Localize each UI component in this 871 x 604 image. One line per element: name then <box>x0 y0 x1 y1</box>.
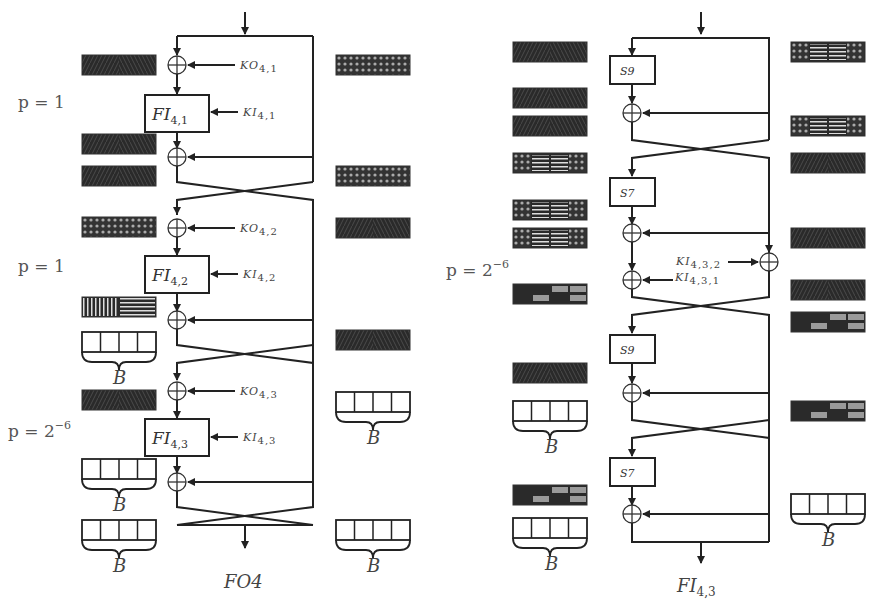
bucket-label: B <box>544 436 558 457</box>
bucket-brace <box>513 401 587 439</box>
state-block-mixed <box>791 42 865 62</box>
bucket-label: B <box>544 553 558 574</box>
bucket-brace <box>82 332 156 370</box>
bucket-brace <box>336 392 410 430</box>
ko-label: KO4,1 <box>239 59 278 74</box>
bucket-label: B <box>112 367 126 388</box>
bucket-label: B <box>112 494 126 515</box>
fo4-diagram <box>82 12 410 558</box>
bucket-label: B <box>366 427 380 448</box>
state-block-dense <box>82 134 156 154</box>
xor-icon <box>168 382 186 400</box>
state-block-crosshatch <box>336 166 410 186</box>
state-block-stripes <box>82 297 156 317</box>
bucket-brace <box>791 494 865 532</box>
xor-icon <box>168 473 186 491</box>
ki-label: KI4,3 <box>242 431 276 446</box>
state-block-dense <box>82 390 156 410</box>
ki-label: KI4,2 <box>242 268 276 283</box>
sbox-label: S7 <box>620 467 635 480</box>
state-block-dense <box>336 330 410 350</box>
probability-label: p = 2−6 <box>446 258 509 280</box>
probability-label: p = 1 <box>18 256 65 276</box>
state-block-crosshatch <box>82 217 156 237</box>
state-block-mixed <box>513 153 587 173</box>
state-block-dense <box>82 55 156 75</box>
state-block-partial <box>791 401 865 421</box>
fi43-diagram <box>513 12 865 563</box>
ki2-label: KI4,3,2 <box>675 255 721 270</box>
bucket-brace <box>82 520 156 558</box>
state-block-partial <box>513 284 587 304</box>
ko-label: KO4,3 <box>239 385 278 400</box>
state-block-dense <box>791 228 865 248</box>
bucket-label: B <box>821 529 835 550</box>
state-block-partial <box>513 485 587 505</box>
state-block-dense <box>513 42 587 62</box>
state-block-dense <box>513 88 587 108</box>
state-block-dense <box>791 153 865 173</box>
xor-icon <box>760 253 778 271</box>
probability-label: p = 1 <box>18 92 65 112</box>
xor-icon <box>623 104 641 122</box>
bucket-label: B <box>366 555 380 576</box>
bucket-brace <box>82 459 156 497</box>
diagram-canvas: KO4,1 FI4,1 KI4,1 p = 1 KO4,2 FI4,2 KI4,… <box>0 0 871 604</box>
ki1-label: KI4,3,1 <box>674 271 720 286</box>
xor-icon <box>623 505 641 523</box>
xor-icon <box>168 148 186 166</box>
sbox-label: S9 <box>620 344 635 357</box>
xor-icon <box>623 224 641 242</box>
xor-icon <box>168 56 186 74</box>
state-block-dense <box>336 218 410 238</box>
sbox-label: S7 <box>620 187 635 200</box>
state-block-partial <box>791 312 865 332</box>
state-block-mixed <box>513 228 587 248</box>
state-block-dense <box>82 166 156 186</box>
xor-icon <box>623 271 641 289</box>
bucket-brace <box>513 518 587 556</box>
state-block-mixed <box>513 200 587 220</box>
fi43-caption: FI4,3 <box>676 575 716 599</box>
state-block-dense <box>513 363 587 383</box>
state-block-dense <box>791 280 865 300</box>
xor-icon <box>623 384 641 402</box>
probability-label: p = 2−6 <box>8 419 71 441</box>
bucket-brace <box>336 520 410 558</box>
xor-icon <box>168 311 186 329</box>
state-block-dense <box>513 116 587 136</box>
state-block-mixed <box>791 116 865 136</box>
state-block-crosshatch <box>336 55 410 75</box>
fo4-caption: FO4 <box>223 571 263 592</box>
bucket-label: B <box>112 555 126 576</box>
sbox-label: S9 <box>620 65 635 78</box>
ko-label: KO4,2 <box>239 222 278 237</box>
ki-label: KI4,1 <box>242 106 276 121</box>
xor-icon <box>168 219 186 237</box>
